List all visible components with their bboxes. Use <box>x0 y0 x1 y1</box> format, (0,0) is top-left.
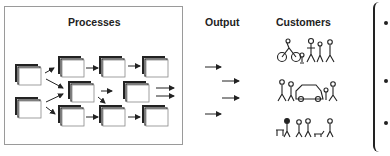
customer-group-1 <box>278 39 335 64</box>
process-box <box>59 57 84 77</box>
process-box <box>100 57 125 77</box>
customer-group-3 <box>276 119 333 137</box>
output-arrows <box>205 67 239 114</box>
process-flow-diagram <box>0 0 390 156</box>
process-box <box>124 82 149 102</box>
process-box <box>16 65 41 85</box>
process-box <box>143 106 168 126</box>
process-box <box>143 57 168 77</box>
process-box <box>59 106 84 126</box>
process-box <box>69 82 94 102</box>
bullet-point <box>384 121 388 125</box>
process-box <box>100 106 125 126</box>
bullet-point <box>384 21 388 25</box>
bullet-point <box>384 79 388 83</box>
bullet-list-bracket <box>373 2 379 152</box>
customer-group-2 <box>278 80 337 102</box>
process-box <box>16 98 41 118</box>
